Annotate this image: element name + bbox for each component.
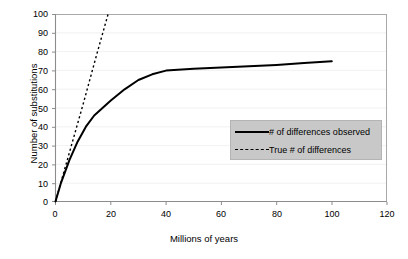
y-axis-title: Number of substitutions bbox=[28, 19, 39, 209]
x-tick-60: 60 bbox=[206, 209, 236, 219]
y-tick-100: 100 bbox=[22, 9, 48, 19]
x-tick-80: 80 bbox=[262, 209, 292, 219]
x-axis-title: Millions of years bbox=[0, 233, 408, 244]
legend-item-observed: # of differences observed bbox=[231, 123, 383, 141]
x-tick-100: 100 bbox=[317, 209, 347, 219]
legend-item-true: True # of differences bbox=[231, 141, 383, 159]
legend-solid-line-icon bbox=[235, 126, 269, 138]
x-tick-120: 120 bbox=[372, 209, 402, 219]
legend-dashed-line-icon bbox=[235, 144, 269, 156]
legend-label-observed: # of differences observed bbox=[269, 127, 370, 137]
x-tick-40: 40 bbox=[151, 209, 181, 219]
chart-legend: # of differences observed True # of diff… bbox=[230, 120, 382, 160]
x-tick-20: 20 bbox=[96, 209, 126, 219]
legend-label-true: True # of differences bbox=[269, 145, 351, 155]
chart-figure: 100 90 80 70 60 50 40 30 20 10 0 0 20 40… bbox=[0, 0, 408, 259]
x-tick-0: 0 bbox=[40, 209, 70, 219]
